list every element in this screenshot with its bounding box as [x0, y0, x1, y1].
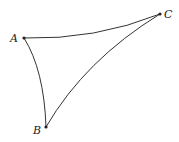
- edge-a-c: [24, 14, 160, 38]
- vertex-b-label: B: [32, 124, 41, 137]
- vertex-c-label: C: [164, 8, 173, 21]
- vertex-c-point: [158, 12, 161, 15]
- vertex-b-point: [44, 125, 47, 128]
- edge-a-b: [24, 38, 46, 127]
- vertex-a-label: A: [9, 32, 18, 45]
- vertex-a-point: [22, 36, 25, 39]
- triangle-diagram: A C B: [0, 0, 179, 142]
